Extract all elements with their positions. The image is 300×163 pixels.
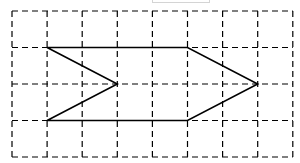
grid-diagram xyxy=(0,0,300,163)
dashed-grid xyxy=(12,11,293,157)
